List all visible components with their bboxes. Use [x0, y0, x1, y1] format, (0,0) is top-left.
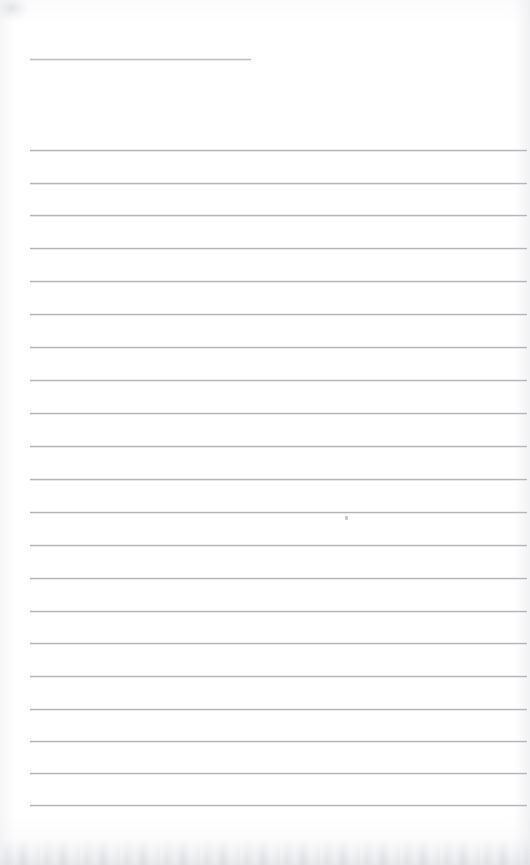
scanned-page: [0, 0, 530, 865]
ruled-line: [30, 413, 527, 414]
ruled-line: [30, 773, 527, 774]
ruled-line: [30, 215, 527, 216]
ruled-line: [30, 709, 527, 710]
ruled-line: [30, 611, 527, 612]
ruled-line: [30, 183, 527, 184]
ruled-line: [30, 512, 527, 513]
ruled-line: [30, 380, 527, 381]
ruled-line: [30, 578, 527, 579]
ruled-line: [30, 741, 527, 742]
paper-background: [0, 0, 530, 865]
ruled-line: [30, 446, 527, 447]
ruled-line: [30, 314, 527, 315]
ruled-line: [30, 281, 527, 282]
ruled-line: [30, 150, 527, 151]
ruled-line: [30, 347, 527, 348]
title-rule: [30, 59, 251, 60]
ruled-line: [30, 676, 527, 677]
ruled-line: [30, 479, 527, 480]
ruled-line: [30, 643, 527, 644]
ruled-line: [30, 248, 527, 249]
ruled-line: [30, 545, 527, 546]
ruled-line: [30, 805, 527, 806]
